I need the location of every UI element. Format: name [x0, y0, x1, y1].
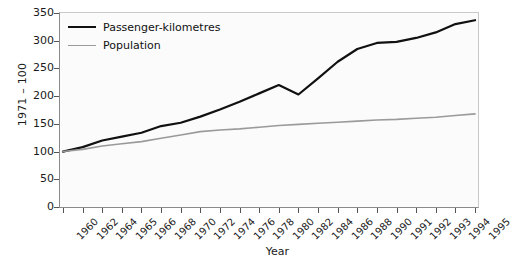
legend-swatch-population: [68, 45, 96, 46]
x-tick-label: 1974: [231, 216, 257, 242]
x-tick-label: 1982: [310, 216, 336, 242]
x-tick-label: 1992: [428, 216, 454, 242]
x-tick-label: 1960: [74, 216, 100, 242]
chart-figure: 1971 – 100 050100150200250300350 1960196…: [0, 0, 515, 267]
x-tick-mark: [141, 208, 142, 213]
x-tick-label: 1965: [133, 216, 159, 242]
x-tick-label: 1990: [388, 216, 414, 242]
x-tick-label: 1972: [212, 216, 238, 242]
chart-legend: Passenger-kilometres Population: [68, 20, 220, 52]
legend-label-population: Population: [103, 40, 161, 51]
x-tick-label: 1988: [369, 216, 395, 242]
x-tick-label: 1980: [290, 216, 316, 242]
y-tick-label: 100: [24, 146, 54, 157]
x-tick-label: 1976: [251, 216, 277, 242]
x-tick-mark: [318, 208, 319, 213]
y-axis-tick-labels: 050100150200250300350: [24, 0, 54, 267]
x-tick-label: 1978: [271, 216, 297, 242]
x-tick-mark: [83, 208, 84, 213]
y-tick-label: 300: [24, 35, 54, 46]
x-tick-mark: [436, 208, 437, 213]
x-tick-mark: [416, 208, 417, 213]
y-tick-label: 150: [24, 118, 54, 129]
x-tick-mark: [122, 208, 123, 213]
x-tick-mark: [279, 208, 280, 213]
y-tick-label: 200: [24, 90, 54, 101]
x-tick-label: 1991: [408, 216, 434, 242]
y-tick-label: 250: [24, 62, 54, 73]
x-axis-title: Year: [0, 245, 515, 258]
x-tick-label: 1984: [330, 216, 356, 242]
x-tick-mark: [397, 208, 398, 213]
x-tick-label: 1962: [94, 216, 120, 242]
x-tick-label: 1964: [114, 216, 140, 242]
x-tick-label: 1995: [486, 216, 512, 242]
x-tick-mark: [357, 208, 358, 213]
x-tick-mark: [63, 208, 64, 213]
x-tick-mark: [102, 208, 103, 213]
x-tick-label: 1986: [349, 216, 375, 242]
x-tick-mark: [161, 208, 162, 213]
x-tick-mark: [181, 208, 182, 213]
y-tick-label: 50: [24, 173, 54, 184]
x-tick-mark: [259, 208, 260, 213]
legend-item-population: Population: [68, 38, 220, 52]
x-tick-label: 1970: [192, 216, 218, 242]
x-tick-mark: [220, 208, 221, 213]
x-tick-label: 1968: [173, 216, 199, 242]
x-tick-label: 1966: [153, 216, 179, 242]
legend-label-passenger-kilometres: Passenger-kilometres: [103, 22, 220, 33]
x-tick-mark: [298, 208, 299, 213]
x-tick-mark: [455, 208, 456, 213]
x-tick-mark: [200, 208, 201, 213]
x-tick-label: 1993: [447, 216, 473, 242]
x-tick-mark: [377, 208, 378, 213]
y-tick-label: 350: [24, 7, 54, 18]
series-line-population: [63, 114, 475, 152]
x-tick-label: 1994: [467, 216, 493, 242]
y-tick-label: 0: [24, 201, 54, 212]
x-tick-mark: [338, 208, 339, 213]
legend-item-passenger-kilometres: Passenger-kilometres: [68, 20, 220, 34]
x-tick-mark: [240, 208, 241, 213]
legend-swatch-passenger-kilometres: [68, 26, 96, 28]
x-tick-mark: [475, 208, 476, 213]
